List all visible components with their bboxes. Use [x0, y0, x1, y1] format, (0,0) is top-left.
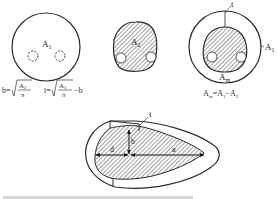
formula-b-den: π: [21, 91, 25, 99]
hole-left: [207, 52, 217, 62]
formula-b-num: A2: [19, 82, 27, 90]
mean-am-label: Am: [219, 72, 231, 83]
formula-b-lhs: b=: [2, 86, 11, 95]
panel-mean-area: t A1 Am: [189, 0, 275, 83]
hole-outline-right: [55, 51, 65, 61]
formula-t-tail: −b: [74, 86, 83, 95]
formula-t: t= A1 π −b: [44, 80, 83, 99]
panel-outer-area: A1: [12, 13, 80, 81]
hole-outline-left: [28, 51, 38, 61]
dimension-b-label: b: [131, 137, 135, 146]
area-a1-label: A1: [42, 39, 52, 50]
formula-b: b= A2 π: [2, 80, 32, 99]
footer-text-cutoff: [3, 196, 193, 199]
dimension-d-label: d: [110, 145, 114, 154]
hole-right: [236, 52, 246, 62]
thickness-t-label: t: [231, 0, 234, 9]
formula-t-lhs: t=: [44, 86, 51, 95]
hole-left: [116, 53, 126, 63]
cross-section-diagram: A1 b= A2 π t= A1 π −b A2 t A1 Am Am=A1−A: [0, 0, 278, 199]
hole-right: [146, 52, 156, 62]
outer-a1-label: A1: [265, 42, 275, 53]
panel-inner-area: A2: [113, 22, 157, 71]
formula-t-num: A1: [59, 82, 67, 90]
panel-teardrop-section: t b d a: [86, 109, 220, 188]
hatched-solid-section: [203, 27, 246, 72]
thickness-t-label: t: [149, 109, 152, 119]
formula-t-den: π: [62, 91, 66, 99]
formula-am: Am=A1−A2: [203, 89, 239, 99]
dimension-a-label: a: [172, 145, 176, 154]
